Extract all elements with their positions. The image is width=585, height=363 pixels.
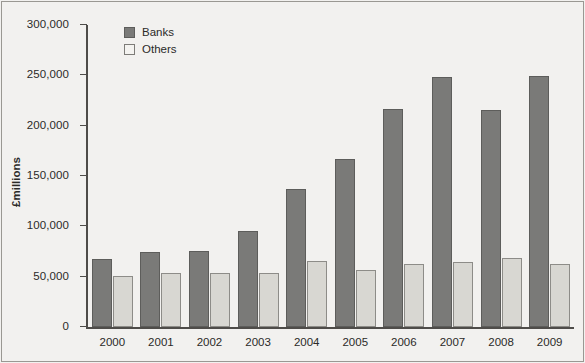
y-axis-tick-label: 100,000: [27, 219, 69, 231]
bar-group: 2000: [88, 25, 137, 327]
y-axis-tick: 150,000: [80, 175, 87, 176]
bar-others-2004[interactable]: [307, 261, 327, 327]
x-axis-tick-label: 2007: [440, 336, 466, 348]
bar-pair: [185, 25, 234, 327]
bar-banks-2008[interactable]: [481, 110, 501, 327]
legend-label-others: Others: [142, 43, 177, 55]
x-axis-line: [86, 327, 574, 329]
bar-others-2008[interactable]: [502, 258, 522, 327]
x-axis-tick-label: 2004: [294, 336, 320, 348]
y-axis-tick: 100,000: [80, 225, 87, 226]
legend-swatch-others-icon: [124, 44, 135, 55]
y-axis-tick: 50,000: [80, 276, 87, 277]
y-axis-tick-label: 150,000: [27, 169, 69, 181]
legend: Banks Others: [124, 26, 177, 60]
bar-others-2007[interactable]: [453, 262, 473, 327]
bar-pair: [282, 25, 331, 327]
y-axis-tick-label: 0: [63, 320, 70, 332]
x-axis-tick-label: 2003: [245, 336, 271, 348]
y-axis-label: £millions: [10, 157, 22, 207]
bar-others-2006[interactable]: [404, 264, 424, 327]
bar-pair: [380, 25, 429, 327]
legend-item-banks[interactable]: Banks: [124, 26, 177, 38]
bar-banks-2006[interactable]: [383, 109, 403, 327]
bar-banks-2005[interactable]: [335, 159, 355, 327]
x-axis-tick-label: 2008: [488, 336, 514, 348]
bar-others-2005[interactable]: [356, 270, 376, 327]
y-axis-tick-label: 200,000: [27, 119, 69, 131]
legend-label-banks: Banks: [142, 26, 174, 38]
bar-others-2003[interactable]: [259, 273, 279, 327]
bar-banks-2007[interactable]: [432, 77, 452, 327]
plot-area: 300,000250,000200,000150,000100,00050,00…: [88, 25, 574, 327]
bar-others-2002[interactable]: [210, 273, 230, 327]
bar-pair: [234, 25, 283, 327]
y-axis-tick: 200,000: [80, 125, 87, 126]
y-axis-tick-label: 50,000: [33, 270, 69, 282]
bar-group: 2007: [428, 25, 477, 327]
bar-group: 2005: [331, 25, 380, 327]
bar-banks-2004[interactable]: [286, 189, 306, 327]
bar-banks-2009[interactable]: [529, 76, 549, 327]
bar-group: 2009: [525, 25, 574, 327]
y-axis-tick-label: 250,000: [27, 68, 69, 80]
bar-group: 2003: [234, 25, 283, 327]
y-axis-tick: 300,000: [80, 24, 87, 25]
bar-banks-2002[interactable]: [189, 251, 209, 328]
x-axis-tick-label: 2005: [342, 336, 368, 348]
x-axis-tick-label: 2006: [391, 336, 417, 348]
bar-group: 2004: [282, 25, 331, 327]
bar-group: 2008: [477, 25, 526, 327]
bar-group: 2006: [380, 25, 429, 327]
bar-pair: [525, 25, 574, 327]
bar-pair: [137, 25, 186, 327]
legend-item-others[interactable]: Others: [124, 43, 177, 55]
bar-pair: [477, 25, 526, 327]
bar-groups: 2000200120022003200420052006200720082009: [88, 25, 574, 327]
bar-chart-figure: £millions 300,000250,000200,000150,00010…: [0, 0, 585, 363]
y-axis-tick-label: 300,000: [27, 18, 69, 30]
bar-group: 2001: [137, 25, 186, 327]
y-axis-tick: 0: [80, 326, 87, 327]
bar-banks-2003[interactable]: [238, 231, 258, 327]
bar-pair: [331, 25, 380, 327]
bar-others-2009[interactable]: [550, 264, 570, 327]
x-axis-tick-label: 2001: [148, 336, 174, 348]
bar-others-2001[interactable]: [161, 273, 181, 327]
legend-swatch-banks-icon: [124, 27, 135, 38]
bar-banks-2001[interactable]: [140, 252, 160, 328]
x-axis-tick-label: 2002: [197, 336, 223, 348]
bar-banks-2000[interactable]: [92, 259, 112, 327]
bar-pair: [428, 25, 477, 327]
bar-pair: [88, 25, 137, 327]
y-axis-tick: 250,000: [80, 74, 87, 75]
x-axis-tick-label: 2009: [537, 336, 563, 348]
x-axis-tick-label: 2000: [100, 336, 126, 348]
bar-others-2000[interactable]: [113, 276, 133, 327]
bar-group: 2002: [185, 25, 234, 327]
